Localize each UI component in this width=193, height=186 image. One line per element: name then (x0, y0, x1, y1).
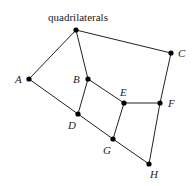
node-h (146, 161, 151, 166)
edge-b-e (88, 79, 124, 103)
label-a: A (14, 73, 22, 85)
edge-d-g (78, 114, 113, 139)
edge-q-a (29, 30, 76, 79)
node-quadrilaterals (73, 27, 78, 32)
edge-g-h (113, 139, 149, 164)
edge-q-b (76, 30, 88, 79)
edge-q-c (76, 30, 171, 53)
label-g: G (103, 144, 111, 156)
node-labels: A C B E F D G H (14, 47, 186, 180)
edges (29, 30, 171, 164)
label-f: F (167, 97, 175, 109)
node-d (75, 111, 80, 116)
node-g (110, 136, 115, 141)
label-h: H (149, 168, 159, 180)
edge-f-h (149, 103, 160, 164)
node-a (26, 76, 31, 81)
edge-a-d (29, 79, 78, 114)
node-f (157, 100, 162, 105)
node-e (121, 100, 126, 105)
edge-e-g (113, 103, 124, 139)
quadrilaterals-diagram: quadrilaterals A C B E F D G H (0, 0, 193, 186)
label-b: B (73, 73, 80, 85)
node-b (85, 76, 90, 81)
label-c: C (178, 47, 186, 59)
diagram-title: quadrilaterals (48, 11, 108, 23)
node-c (168, 50, 173, 55)
label-d: D (67, 119, 76, 131)
edge-c-f (160, 53, 171, 103)
label-e: E (119, 86, 127, 98)
